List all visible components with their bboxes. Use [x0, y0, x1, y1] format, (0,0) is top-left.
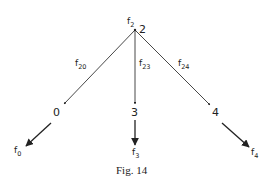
- flow-tree-diagram: f2 2 f20 f23 f24 0 3 4 f0 f3 f4 Fig. 14: [0, 0, 269, 185]
- outflow-label-4: f4: [251, 147, 258, 160]
- figure-caption: Fig. 14: [116, 164, 148, 176]
- node-2-label: 2: [139, 23, 146, 36]
- node-0-label: 0: [53, 106, 60, 119]
- node-2-flow-label: f2: [127, 16, 134, 29]
- edge-label-24: f24: [178, 58, 189, 71]
- outflow-label-0: f0: [14, 145, 21, 158]
- outflow-arrow-4: [222, 123, 249, 147]
- node-4-label: 4: [212, 106, 219, 119]
- outflow-arrow-0: [26, 123, 51, 146]
- node-3-label: 3: [131, 106, 138, 119]
- edge-label-20: f20: [75, 58, 86, 71]
- outflow-label-3: f3: [132, 147, 139, 160]
- node-2-dot: [134, 29, 136, 31]
- edge-label-23: f23: [139, 58, 150, 71]
